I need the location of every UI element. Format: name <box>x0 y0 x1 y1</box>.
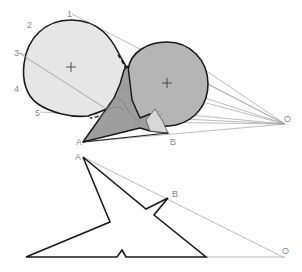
label-F: F <box>118 97 122 104</box>
label-A-upper: A <box>76 137 82 147</box>
label-O-lower: O <box>282 246 289 256</box>
projection-line-AO <box>83 157 285 258</box>
label-A-lower: A <box>75 152 81 162</box>
lower-figure: A B O <box>26 152 289 258</box>
label-G: G <box>157 110 162 117</box>
diagram-canvas: 1 2 3 4 5 A B O E F G H A B O <box>0 0 302 272</box>
label-E: E <box>126 85 131 92</box>
label-3: 3 <box>14 48 19 58</box>
label-O-upper: O <box>284 114 291 124</box>
label-4: 4 <box>14 84 19 94</box>
label-1: 1 <box>67 9 72 19</box>
star-outline <box>26 157 206 257</box>
label-2: 2 <box>27 20 32 30</box>
label-5: 5 <box>35 108 40 118</box>
label-H: H <box>134 121 139 128</box>
label-B-upper: B <box>170 137 176 147</box>
label-B-lower: B <box>172 189 178 199</box>
